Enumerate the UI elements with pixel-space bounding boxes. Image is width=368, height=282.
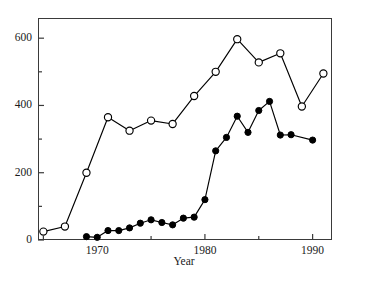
data-point bbox=[223, 134, 229, 140]
data-point bbox=[213, 148, 219, 154]
data-point bbox=[255, 59, 262, 66]
data-point bbox=[191, 214, 197, 220]
data-point bbox=[277, 132, 283, 138]
data-point bbox=[170, 222, 176, 228]
data-point bbox=[234, 113, 240, 119]
data-point bbox=[169, 120, 176, 127]
data-point bbox=[105, 227, 111, 233]
data-point bbox=[180, 215, 186, 221]
data-point bbox=[159, 219, 165, 225]
y-tick-label: 0 bbox=[2, 234, 32, 245]
data-point bbox=[83, 234, 89, 240]
data-point bbox=[288, 132, 294, 138]
data-point bbox=[126, 127, 133, 134]
chart-container: 0200400600 197019801990 Year bbox=[0, 0, 368, 282]
data-point bbox=[310, 137, 316, 143]
data-point bbox=[320, 70, 327, 77]
data-point bbox=[83, 169, 90, 176]
data-point bbox=[126, 225, 132, 231]
data-point bbox=[256, 107, 262, 113]
data-point bbox=[277, 50, 284, 57]
data-point bbox=[137, 220, 143, 226]
data-point bbox=[298, 103, 305, 110]
axis-ticks bbox=[38, 38, 313, 240]
x-axis-title: Year bbox=[0, 255, 368, 267]
y-tick-label: 200 bbox=[2, 167, 32, 178]
data-point bbox=[104, 114, 111, 121]
y-tick-label: 600 bbox=[2, 32, 32, 43]
data-point bbox=[245, 129, 251, 135]
data-point bbox=[94, 234, 100, 240]
data-point bbox=[147, 117, 154, 124]
series-filled-circles bbox=[83, 98, 315, 240]
data-point bbox=[61, 223, 68, 230]
data-point bbox=[212, 68, 219, 75]
y-tick-label: 400 bbox=[2, 99, 32, 110]
data-point bbox=[116, 227, 122, 233]
data-point bbox=[266, 98, 272, 104]
data-point bbox=[234, 36, 241, 43]
data-point bbox=[148, 217, 154, 223]
data-point bbox=[202, 197, 208, 203]
plot-svg bbox=[0, 0, 368, 282]
data-point bbox=[40, 228, 47, 235]
data-point bbox=[191, 92, 198, 99]
